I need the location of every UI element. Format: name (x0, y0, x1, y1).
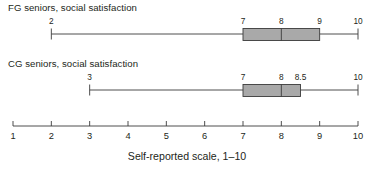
axis-tick-label: 3 (87, 131, 92, 141)
boxplot-panel-cg: CG seniors, social satisfaction 3788.510 (0, 56, 374, 111)
x-axis-panel: 12345678910 Self-reported scale, 1–10 (0, 112, 374, 170)
axis-tick-label: 7 (240, 131, 245, 141)
boxplot-panel-fg: FG seniors, social satisfaction 278910 (0, 0, 374, 55)
axis-tick-label: 1 (10, 131, 15, 141)
axis-tick-label: 10 (353, 131, 363, 141)
axis-tick-label: 9 (317, 131, 322, 141)
axis-tick-label: 5 (164, 131, 169, 141)
boxplot-figure: FG seniors, social satisfaction 278910 C… (0, 0, 374, 170)
axis-tick-label: 6 (202, 131, 207, 141)
x-axis-caption: Self-reported scale, 1–10 (0, 150, 374, 163)
axis-tick-label: 4 (125, 131, 130, 141)
axis-tick-label: 2 (49, 131, 54, 141)
boxplot-graphic-fg (0, 0, 374, 55)
box-iqr (243, 85, 301, 97)
boxplot-graphic-cg (0, 56, 374, 111)
axis-tick-label: 8 (279, 131, 284, 141)
